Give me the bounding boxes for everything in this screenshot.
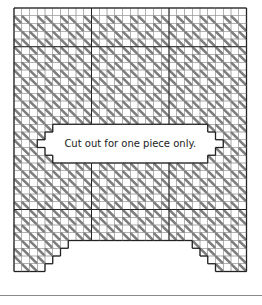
divider-rule <box>0 295 262 296</box>
cutout-label-text: Cut out for one piece only. <box>64 138 196 149</box>
cutout-label: Cut out for one piece only. <box>53 124 208 163</box>
